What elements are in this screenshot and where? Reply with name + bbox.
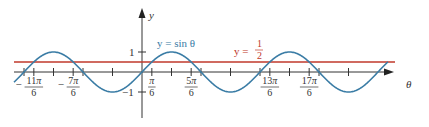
half-label-den: 2: [257, 50, 262, 61]
svg-text:17π: 17π: [302, 75, 318, 86]
x-tick-label: 13π6: [261, 75, 280, 98]
svg-text:5π: 5π: [186, 75, 197, 86]
x-axis-arrow-icon: [384, 69, 394, 76]
svg-text:π: π: [149, 75, 155, 86]
y-tick-label-1: 1: [129, 46, 135, 58]
svg-text:11π: 11π: [27, 75, 43, 86]
y-axis-label: y: [148, 9, 154, 21]
half-label: y = 1 2: [234, 38, 263, 61]
svg-text:6: 6: [71, 87, 76, 98]
x-tick-label: π6: [148, 75, 156, 98]
y-axis-arrow-icon: [139, 8, 146, 18]
half-label-num: 1: [257, 38, 262, 49]
svg-text:7π: 7π: [68, 75, 79, 86]
sine-chart: y θ 1 −1 y = sin θ y = 1 2 −11π6−7π6π65π…: [0, 0, 429, 127]
x-tick-label: 5π6: [185, 75, 198, 98]
half-label-prefix: y =: [234, 45, 248, 57]
y-tick-label-neg1: −1: [122, 86, 134, 98]
svg-text:6: 6: [149, 87, 154, 98]
svg-text:6: 6: [267, 87, 272, 98]
x-tick-label: −7π6: [58, 75, 80, 98]
svg-text:6: 6: [31, 87, 36, 98]
sine-label: y = sin θ: [157, 37, 195, 49]
svg-text:−: −: [16, 78, 22, 90]
x-tick-label: 17π6: [300, 75, 319, 98]
svg-text:6: 6: [307, 87, 312, 98]
x-tick-label: −11π6: [16, 75, 44, 98]
svg-text:−: −: [58, 78, 64, 90]
axes: [14, 8, 394, 118]
svg-text:6: 6: [189, 87, 194, 98]
x-tick-labels: −11π6−7π6π65π613π617π6: [16, 75, 319, 98]
svg-text:13π: 13π: [262, 75, 278, 86]
x-axis-label: θ: [406, 78, 412, 90]
